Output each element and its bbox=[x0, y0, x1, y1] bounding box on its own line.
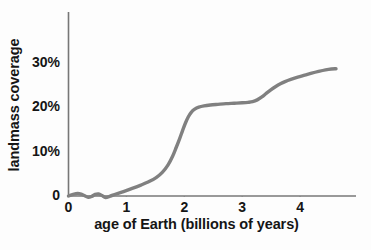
x-tick-label-3: 3 bbox=[231, 199, 253, 215]
y-tick-label-10pct: 10% bbox=[14, 143, 60, 159]
x-tick-label-0: 0 bbox=[58, 199, 80, 215]
y-tick-label-20pct: 20% bbox=[14, 98, 60, 114]
x-axis-title: age of Earth (billions of years) bbox=[0, 216, 371, 232]
x-tick-label-4: 4 bbox=[289, 199, 311, 215]
y-tick-label-0: 0 bbox=[14, 187, 60, 203]
chart-container: landmass coverage age of Earth (billions… bbox=[0, 0, 371, 250]
y-tick-label-30pct: 30% bbox=[14, 54, 60, 70]
data-series-line bbox=[69, 69, 337, 198]
x-tick-label-1: 1 bbox=[115, 199, 137, 215]
x-tick-label-2: 2 bbox=[173, 199, 195, 215]
